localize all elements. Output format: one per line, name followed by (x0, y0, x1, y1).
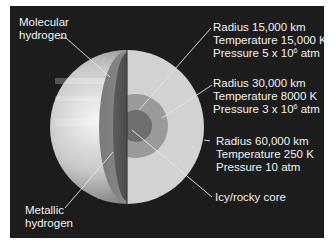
radius-value: Radius 30,000 km (213, 77, 320, 90)
pressure-unit: atm (297, 47, 319, 59)
temperature-value: Temperature 8000 K (213, 90, 320, 103)
label-line: Metallic (25, 204, 73, 217)
label-line: hydrogen (19, 29, 69, 42)
pressure-value: Pressure 10 atm (216, 161, 314, 174)
pressure-value: Pressure 3 x 106 atm (213, 103, 320, 116)
pressure-unit: atm (297, 103, 319, 115)
temperature-value: Temperature 15,000 K (213, 34, 327, 47)
radius-value: Radius 15,000 km (213, 21, 327, 34)
radius-value: Radius 60,000 km (216, 135, 314, 148)
pressure-prefix: Pressure 3 x 10 (213, 103, 294, 115)
label-molecular-hydrogen: Molecular hydrogen (19, 16, 69, 42)
pressure-value: Pressure 5 x 106 atm (213, 47, 327, 60)
label-layer-1: Radius 15,000 km Temperature 15,000 K Pr… (213, 21, 327, 60)
label-core: Icy/rocky core (215, 191, 286, 204)
label-line: hydrogen (25, 217, 73, 230)
label-line: Molecular (19, 16, 69, 29)
label-line: Icy/rocky core (215, 191, 286, 204)
label-metallic-hydrogen: Metallic hydrogen (25, 204, 73, 230)
label-layer-2: Radius 30,000 km Temperature 8000 K Pres… (213, 77, 320, 116)
temperature-value: Temperature 250 K (216, 148, 314, 161)
pressure-prefix: Pressure 5 x 10 (213, 47, 294, 59)
label-layer-3: Radius 60,000 km Temperature 250 K Press… (216, 135, 314, 174)
